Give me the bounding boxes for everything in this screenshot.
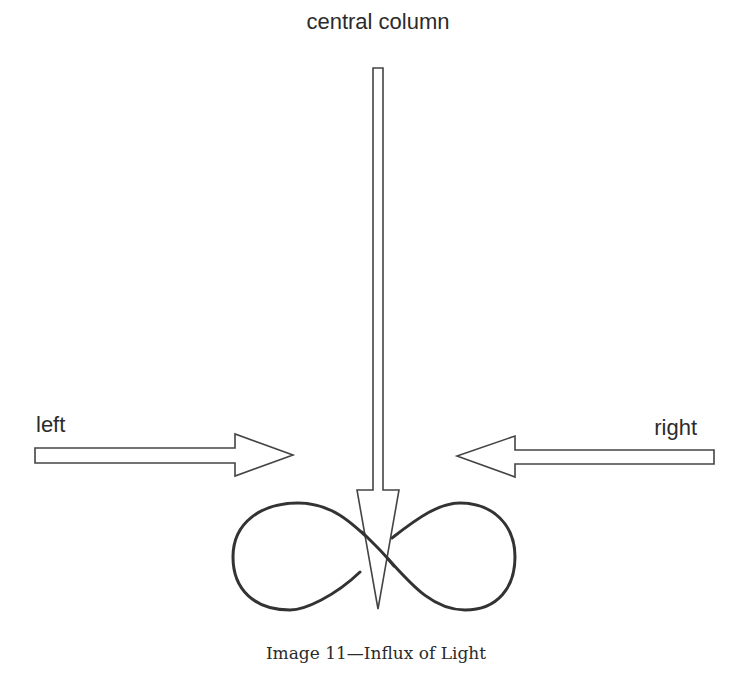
right-arrow-icon bbox=[457, 436, 714, 477]
right-label: right bbox=[654, 415, 697, 440]
influx-of-light-diagram: central column left right Image 11—Influ… bbox=[0, 0, 749, 681]
central-column-arrow-icon bbox=[357, 68, 399, 609]
left-arrow-icon bbox=[35, 434, 293, 476]
left-label: left bbox=[36, 412, 65, 437]
central-column-label: central column bbox=[306, 9, 449, 34]
figure-caption: Image 11—Influx of Light bbox=[266, 643, 486, 663]
